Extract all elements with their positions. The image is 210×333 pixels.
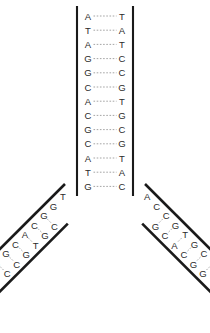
right-fork-outer-base-6: C <box>201 248 208 259</box>
left-fork-outer-base-6: G <box>2 248 9 259</box>
left-fork-inner-base-1: G <box>41 230 48 241</box>
right-fork-inner-base-4: G <box>190 259 197 270</box>
right-fork-outer-base-2: C <box>163 210 170 221</box>
trunk-base-left-3: G <box>84 53 91 64</box>
right-fork-outer-base-0: A <box>144 191 151 202</box>
trunk-hydrogen-bonds <box>94 16 117 186</box>
trunk-base-right-2: T <box>119 39 125 50</box>
trunk-base-right-3: C <box>119 53 126 64</box>
left-fork-inner-base-2: T <box>33 240 39 251</box>
left-fork-outer-base-4: A <box>22 229 29 240</box>
trunk-base-left-2: A <box>85 39 92 50</box>
left-fork-outer-base-2: G <box>40 210 47 221</box>
right-fork-hbond-2 <box>177 238 181 242</box>
trunk-base-right-6: T <box>119 96 125 107</box>
trunk-base-right-7: G <box>118 110 125 121</box>
trunk-base-left-7: C <box>85 110 92 121</box>
trunk-base-letters: ATTAATGCGCCGATCGGCCGATTAGC <box>84 11 126 192</box>
trunk-base-right-1: A <box>119 25 126 36</box>
left-fork-inner-base-4: C <box>13 259 20 270</box>
right-fork-inner-base-3: C <box>180 249 187 260</box>
trunk-base-right-5: G <box>118 82 125 93</box>
right-fork-hydrogen-bonds <box>158 219 209 270</box>
left-fork-outer-base-1: G <box>50 201 57 212</box>
right-fork-outer-base-5: G <box>191 239 198 250</box>
left-fork-outer-base-5: C <box>12 239 19 250</box>
right-fork-outer-base-3: G <box>172 220 179 231</box>
trunk-base-right-9: G <box>118 138 125 149</box>
dna-replication-fork-diagram: ATTAATGCGCCGATCGGCCGATTAGC TGGCACGGCGTGC… <box>0 0 210 333</box>
trunk-base-right-0: T <box>119 11 125 22</box>
trunk-base-left-5: C <box>85 82 92 93</box>
trunk-base-left-9: C <box>85 138 92 149</box>
trunk-base-left-8: G <box>84 124 91 135</box>
trunk-base-left-0: A <box>85 11 92 22</box>
left-fork-inner-base-3: G <box>22 249 29 260</box>
right-fork-outer-base-1: C <box>153 201 160 212</box>
trunk-base-right-8: C <box>119 124 126 135</box>
right-fork-inner-backbone <box>142 224 210 300</box>
trunk-base-left-6: A <box>85 96 92 107</box>
left-fork-hydrogen-bonds <box>0 219 51 270</box>
left-fork-inner-backbone <box>0 224 68 300</box>
trunk-base-left-1: T <box>85 25 91 36</box>
left-fork-inner-base-0: C <box>51 221 58 232</box>
left-fork-inner-base-5: C <box>4 268 11 279</box>
right-fork-inner-base-5: G <box>199 268 206 279</box>
right-fork-inner-base-1: C <box>162 230 169 241</box>
trunk-base-right-10: T <box>119 153 125 164</box>
trunk-base-right-12: C <box>119 181 126 192</box>
trunk-base-right-4: C <box>119 67 126 78</box>
trunk-base-right-11: A <box>119 167 126 178</box>
left-fork-outer-base-0: T <box>60 191 66 202</box>
right-fork-outer-base-4: T <box>182 229 188 240</box>
left-fork-outer-base-3: C <box>31 220 38 231</box>
trunk-base-left-10: A <box>85 153 92 164</box>
trunk-base-left-12: G <box>84 181 91 192</box>
trunk-base-left-11: T <box>85 167 91 178</box>
dna-diagram-canvas: ATTAATGCGCCGATCGGCCGATTAGC TGGCACGGCGTGC… <box>0 0 210 333</box>
trunk-base-left-4: G <box>84 67 91 78</box>
right-fork-inner-base-0: G <box>152 221 159 232</box>
right-fork-inner-base-2: A <box>171 240 178 251</box>
